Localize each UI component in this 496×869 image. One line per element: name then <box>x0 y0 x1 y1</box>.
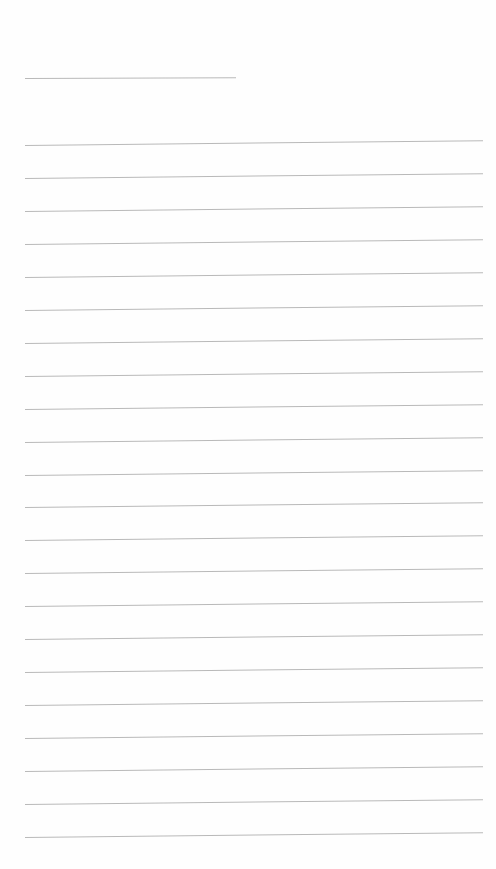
ruled-line <box>25 470 483 476</box>
ruled-line <box>25 832 483 838</box>
ruled-line <box>25 371 483 377</box>
ruled-line <box>25 305 483 311</box>
title-line <box>25 77 236 79</box>
ruled-line <box>25 535 483 541</box>
ruled-line <box>25 404 483 410</box>
ruled-line <box>25 733 483 739</box>
ruled-line <box>25 437 483 443</box>
ruled-line <box>25 667 483 673</box>
ruled-line <box>25 239 483 245</box>
ruled-line <box>25 700 483 706</box>
ruled-line <box>25 173 483 179</box>
ruled-line <box>25 766 483 772</box>
ruled-line <box>25 272 483 278</box>
ruled-line <box>25 502 483 508</box>
ruled-line <box>25 601 483 607</box>
ruled-line <box>25 338 483 344</box>
lined-paper-page <box>0 0 496 869</box>
ruled-line <box>25 568 483 574</box>
ruled-line <box>25 140 483 146</box>
ruled-line <box>25 206 483 212</box>
ruled-line <box>25 799 483 805</box>
ruled-line <box>25 634 483 640</box>
